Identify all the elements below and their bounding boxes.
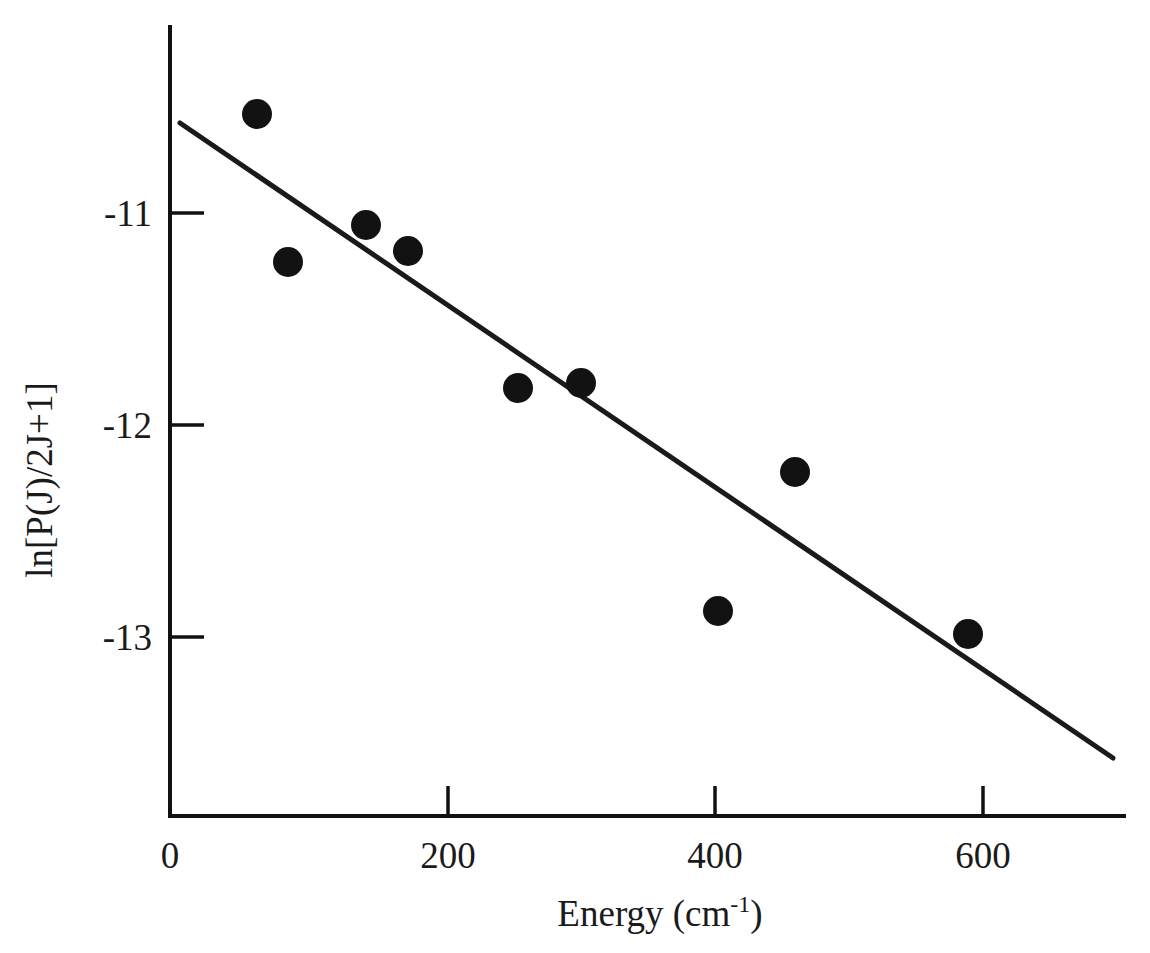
x-axis-title-tail: ) <box>750 893 762 935</box>
y-tick-label-2: -13 <box>103 617 152 658</box>
scatter-plot: -11 -12 -13 0 200 400 600 ln[P(J)/2J+1] … <box>0 0 1150 953</box>
data-point <box>780 457 810 487</box>
x-axis-title-exponent: -1 <box>730 891 750 917</box>
data-point <box>703 596 733 626</box>
data-point <box>953 619 983 649</box>
y-tick-label-1: -12 <box>103 405 152 446</box>
data-point <box>273 247 303 277</box>
x-tick-label-2: 400 <box>687 835 743 876</box>
figure-container: -11 -12 -13 0 200 400 600 ln[P(J)/2J+1] … <box>0 0 1150 953</box>
data-point <box>351 210 381 240</box>
x-tick-label-3: 600 <box>955 835 1011 876</box>
x-tick-label-1: 200 <box>420 835 476 876</box>
data-point <box>393 236 423 266</box>
x-tick-label-0: 0 <box>161 835 180 876</box>
x-axis-title-base: Energy (cm <box>557 893 730 935</box>
linear-fit-line <box>180 123 1113 758</box>
data-point <box>566 368 596 398</box>
y-axis-title: ln[P(J)/2J+1] <box>19 382 61 578</box>
data-point <box>503 373 533 403</box>
data-point <box>242 99 272 129</box>
y-tick-label-0: -11 <box>104 193 152 234</box>
x-axis-title: Energy (cm-1) <box>557 891 762 935</box>
